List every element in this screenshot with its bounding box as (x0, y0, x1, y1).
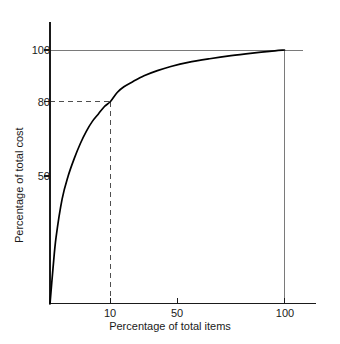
plot-area (0, 0, 340, 344)
x-axis-title: Percentage of total items (0, 321, 340, 332)
x-tick-label-10: 10 (104, 308, 116, 319)
x-tick-label-50: 50 (171, 308, 183, 319)
y-tick-label-100: 100 (32, 45, 50, 56)
y-tick-label-80: 80 (38, 97, 50, 108)
pareto-chart: 100 80 50 10 50 100 Percentage of total … (0, 0, 340, 344)
y-tick-label-50: 50 (38, 171, 50, 182)
x-tick-label-100: 100 (276, 308, 294, 319)
pareto-curve (50, 50, 285, 304)
y-axis-title: Percentage of total cost (14, 232, 25, 243)
